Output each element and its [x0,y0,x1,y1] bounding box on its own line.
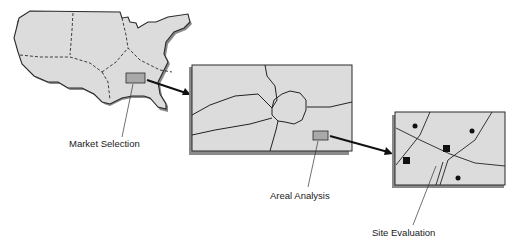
site-dot [413,124,418,129]
site-selection-diagram [0,0,524,247]
us-map [14,11,190,109]
candidate-site [443,145,450,152]
candidate-site [403,157,410,164]
site-dot [470,129,475,134]
market-highlight-box [126,73,145,83]
arrow-head-icon [384,147,393,155]
label-market-selection: Market Selection [69,138,140,149]
site-dot [456,176,461,181]
label-site-evaluation: Site Evaluation [372,227,435,238]
label-areal-analysis: Areal Analysis [270,190,330,201]
areal-highlight-box [313,131,328,140]
